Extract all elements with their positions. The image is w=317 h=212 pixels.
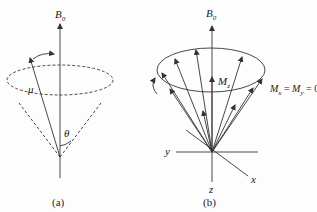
caption-b: (b)	[203, 197, 216, 208]
mz-label: Mz	[218, 76, 230, 90]
rotation-arrow-b	[153, 78, 157, 94]
b0-label-a: B0	[55, 9, 65, 23]
panel-b-graphics	[153, 26, 265, 182]
x-axis-label: x	[251, 174, 256, 185]
cone-left-dashed	[19, 103, 60, 157]
z-axis-label: z	[209, 184, 213, 195]
mx-my-equation: Mx = My = 0	[270, 84, 317, 97]
theta-label: θ	[64, 128, 69, 139]
mu-label: μ	[28, 84, 34, 95]
b0-label-b: B0	[206, 8, 216, 22]
panel-a-graphics	[7, 24, 113, 178]
figure-graphics	[0, 0, 317, 212]
caption-a: (a)	[52, 197, 64, 208]
precession-figure: B0 μ θ (a) B0 Mz Mx = My = 0 y x z (b)	[0, 0, 317, 212]
y-axis-label: y	[165, 146, 170, 157]
precession-arrow-a	[33, 54, 54, 59]
precession-ellipse-b	[157, 48, 265, 92]
mu-vector	[30, 58, 60, 157]
